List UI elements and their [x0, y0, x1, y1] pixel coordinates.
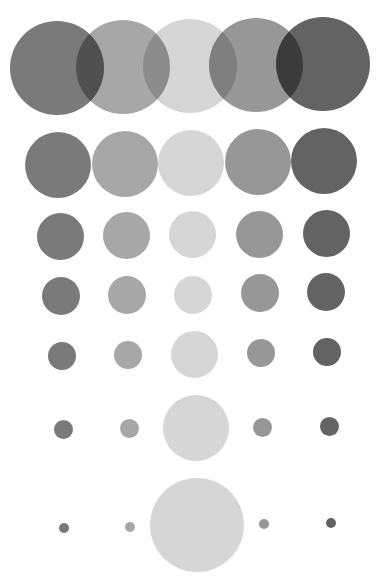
circle-c1 — [25, 132, 91, 198]
circle-c2 — [120, 419, 139, 438]
circle-c3 — [163, 395, 229, 461]
circle-c5 — [303, 210, 350, 257]
circle-c5 — [291, 128, 357, 194]
circle-c4 — [247, 339, 275, 367]
circle-c3 — [171, 331, 218, 378]
circle-c4 — [259, 519, 269, 529]
circle-c1 — [42, 277, 80, 315]
circle-c2 — [108, 276, 146, 314]
circle-c5 — [276, 17, 370, 111]
circle-c4 — [241, 274, 279, 312]
circle-c2 — [114, 341, 142, 369]
circle-c4 — [225, 129, 291, 195]
circle-c1 — [54, 420, 73, 439]
circle-c5 — [320, 417, 339, 436]
circle-c2 — [103, 212, 150, 259]
circle-c3 — [169, 211, 216, 258]
circle-c5 — [313, 338, 341, 366]
circle-c5 — [326, 518, 336, 528]
circle-c4 — [236, 211, 283, 258]
circle-c4 — [253, 418, 272, 437]
circle-c2 — [125, 522, 135, 532]
circle-grid-canvas — [0, 0, 380, 587]
circle-c1 — [48, 342, 76, 370]
circle-c1 — [37, 213, 84, 260]
circle-c2 — [92, 131, 158, 197]
circle-c5 — [307, 273, 345, 311]
circle-c3 — [150, 478, 244, 572]
circle-c3 — [174, 276, 212, 314]
circle-c3 — [158, 130, 224, 196]
circle-c1 — [59, 523, 69, 533]
